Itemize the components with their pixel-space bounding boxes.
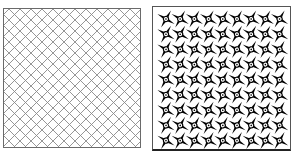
- star-motif: [172, 102, 189, 119]
- star-motif: [257, 102, 274, 119]
- star-motif: [157, 117, 174, 134]
- star-motif: [214, 56, 231, 73]
- star-motif: [200, 10, 217, 27]
- star-motif: [186, 86, 203, 103]
- star-motif: [243, 117, 260, 134]
- star-motif: [172, 56, 189, 73]
- star-motif: [257, 10, 274, 27]
- star-motif: [200, 102, 217, 119]
- star-motif: [200, 132, 217, 149]
- star-motif: [271, 10, 288, 27]
- star-motif: [243, 56, 260, 73]
- star-motif: [186, 10, 203, 27]
- star-motif: [214, 117, 231, 134]
- star-motif: [157, 56, 174, 73]
- star-motif: [172, 41, 189, 58]
- star-motif: [172, 10, 189, 27]
- star-motif: [200, 41, 217, 58]
- star-motif: [172, 26, 189, 43]
- star-motif: [214, 26, 231, 43]
- star-motif: [243, 86, 260, 103]
- star-motif: [271, 26, 288, 43]
- star-motif: [228, 10, 245, 27]
- star-motif: [214, 41, 231, 58]
- star-motif: [214, 71, 231, 88]
- star-motif: [257, 26, 274, 43]
- star-motif: [186, 102, 203, 119]
- star-motif: [186, 132, 203, 149]
- star-motif: [257, 132, 274, 149]
- star-motif: [257, 41, 274, 58]
- star-motif: [186, 71, 203, 88]
- star-motif: [214, 102, 231, 119]
- star-motif: [243, 10, 260, 27]
- star-motif: [200, 56, 217, 73]
- diagonal-lattice-panel: [3, 8, 141, 148]
- star-motif: [172, 132, 189, 149]
- star-motif: [228, 26, 245, 43]
- star-motif: [228, 56, 245, 73]
- star-motif: [200, 71, 217, 88]
- star-motif: [157, 86, 174, 103]
- star-motif: [186, 117, 203, 134]
- star-motif: [214, 10, 231, 27]
- star-motif: [243, 26, 260, 43]
- star-motif: [186, 41, 203, 58]
- star-motif: [271, 41, 288, 58]
- star-motif: [157, 71, 174, 88]
- star-motif: [157, 26, 174, 43]
- star-motif: [200, 26, 217, 43]
- star-motif: [228, 102, 245, 119]
- star-motif: [228, 41, 245, 58]
- star-tiling-pattern: [153, 7, 290, 149]
- star-motif: [186, 56, 203, 73]
- star-motif: [228, 132, 245, 149]
- star-motif: [228, 86, 245, 103]
- star-motif: [257, 71, 274, 88]
- star-motif: [228, 71, 245, 88]
- lattice-pattern: [4, 9, 140, 147]
- star-motif: [172, 71, 189, 88]
- star-motif: [157, 132, 174, 149]
- star-motif: [257, 117, 274, 134]
- star-motif: [157, 10, 174, 27]
- star-motif: [271, 102, 288, 119]
- star-motif: [157, 102, 174, 119]
- star-motif: [243, 102, 260, 119]
- star-motif: [271, 56, 288, 73]
- star-motif: [172, 117, 189, 134]
- star-tiling-panel: [152, 6, 291, 151]
- star-motif: [200, 86, 217, 103]
- star-motif: [228, 117, 245, 134]
- star-motif: [186, 26, 203, 43]
- star-motif: [271, 71, 288, 88]
- star-motif: [214, 86, 231, 103]
- star-motif: [214, 132, 231, 149]
- star-motif: [200, 117, 217, 134]
- star-motif: [271, 86, 288, 103]
- star-motif: [257, 56, 274, 73]
- star-motif: [257, 86, 274, 103]
- star-motif: [243, 41, 260, 58]
- star-motif: [172, 86, 189, 103]
- star-motif: [271, 117, 288, 134]
- star-motif: [243, 132, 260, 149]
- star-motif: [271, 132, 288, 149]
- star-motif: [157, 41, 174, 58]
- star-motif: [243, 71, 260, 88]
